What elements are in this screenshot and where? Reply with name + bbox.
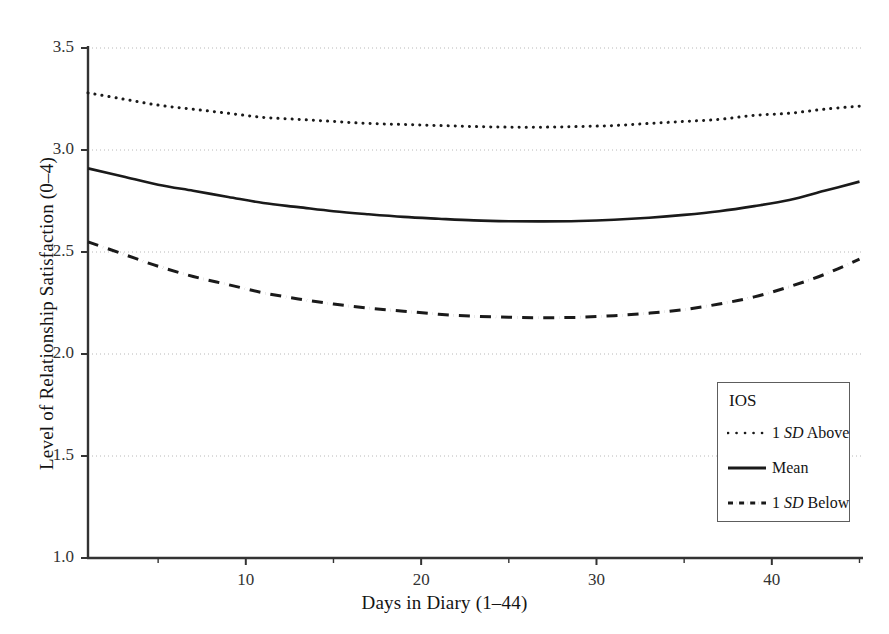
chart-legend: IOS 1 SD Above Mean 1 SD Below [717,382,850,522]
legend-label-em: SD [784,494,804,511]
series-line-1 [88,168,859,221]
legend-swatch-dash-dot [727,496,767,510]
legend-label-mean: Mean [772,459,808,477]
legend-item-mean[interactable]: Mean [727,457,847,479]
legend-item-1sd-above[interactable]: 1 SD Above [727,422,847,444]
x-tick-label: 40 [749,570,795,590]
legend-label-suffix: Mean [772,459,808,476]
legend-swatch-dotted [727,426,767,440]
y-axis-title: Level of Relationship Satisfaction (0–4) [36,157,58,470]
legend-swatch-solid [727,461,767,475]
chart-plot-area [0,0,889,634]
y-tick-label: 1.5 [28,445,74,465]
legend-label-prefix: 1 [772,424,784,441]
series-line-0 [88,93,859,127]
legend-label-prefix: 1 [772,494,784,511]
legend-label-1sd-above: 1 SD Above [772,424,849,442]
y-tick-label: 3.5 [28,37,74,57]
data-curves-group [88,93,859,318]
legend-label-suffix: Below [804,494,850,511]
y-tick-label: 2.5 [28,241,74,261]
x-tick-label: 30 [573,570,619,590]
legend-item-1sd-below[interactable]: 1 SD Below [727,492,847,514]
x-tick-label: 20 [398,570,444,590]
chart-figure: Level of Relationship Satisfaction (0–4)… [0,0,889,634]
legend-label-1sd-below: 1 SD Below [772,494,849,512]
x-axis-title: Days in Diary (1–44) [0,592,889,614]
x-tick-label: 10 [223,570,269,590]
legend-label-em: SD [784,424,804,441]
legend-title: IOS [729,391,756,411]
series-line-2 [88,242,859,318]
legend-label-suffix: Above [804,424,850,441]
y-tick-label: 3.0 [28,139,74,159]
y-tick-label: 2.0 [28,343,74,363]
y-tick-label: 1.0 [28,547,74,567]
